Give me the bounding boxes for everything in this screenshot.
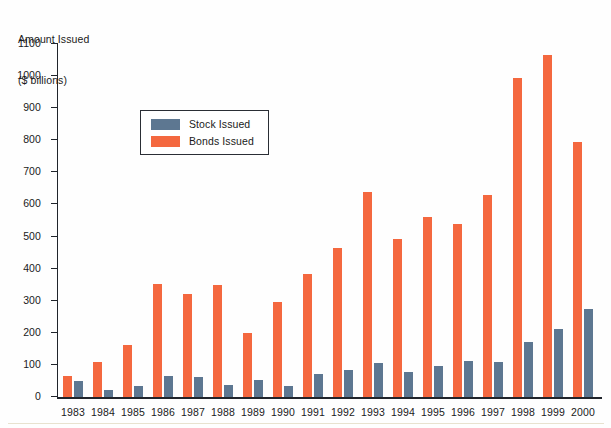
bar-group: 1994: [388, 44, 418, 397]
page-bottom-rule: [8, 423, 604, 424]
bar-stock[interactable]: [254, 380, 264, 397]
bar-bonds[interactable]: [213, 285, 223, 397]
x-axis-tick-label: 1984: [91, 406, 115, 418]
x-axis-tick-label: 1996: [451, 406, 475, 418]
bar-stock[interactable]: [584, 309, 594, 397]
x-axis-tick-label: 1992: [331, 406, 355, 418]
y-axis-tick-label: 800: [23, 133, 41, 145]
bar-stock[interactable]: [434, 366, 444, 397]
y-axis-tick-label: 400: [23, 262, 41, 274]
bar-bonds[interactable]: [363, 192, 373, 397]
bar-stock[interactable]: [464, 361, 474, 397]
y-axis-tick: 700: [51, 171, 58, 172]
y-axis-tick: 200: [51, 332, 58, 333]
x-axis-tick-label: 1991: [301, 406, 325, 418]
y-axis-tick: 100: [51, 364, 58, 365]
x-axis-line: [57, 397, 602, 399]
x-axis-tick-label: 1989: [241, 406, 265, 418]
plot-area: 010020030040050060070080090010001100 198…: [58, 44, 598, 397]
bar-stock[interactable]: [344, 370, 354, 397]
x-axis-tick-label: 1998: [511, 406, 535, 418]
legend-item-stock[interactable]: Stock Issued: [151, 118, 254, 130]
x-axis-tick-label: 1983: [61, 406, 85, 418]
bar-group: 1995: [418, 44, 448, 397]
y-axis-tick: 600: [51, 203, 58, 204]
bar-group: 1996: [448, 44, 478, 397]
y-axis-tick-label: 600: [23, 197, 41, 209]
legend-swatch-stock: [151, 119, 180, 130]
bar-group: 2000: [568, 44, 598, 397]
bar-stock[interactable]: [374, 363, 384, 397]
y-axis-tick: 400: [51, 268, 58, 269]
x-axis-tick-label: 1988: [211, 406, 235, 418]
bar-bonds[interactable]: [483, 195, 493, 397]
legend-label-stock: Stock Issued: [189, 118, 250, 130]
bar-group: 1989: [238, 44, 268, 397]
bar-bonds[interactable]: [573, 142, 583, 397]
bar-stock[interactable]: [224, 385, 234, 398]
x-axis-tick-label: 1987: [181, 406, 205, 418]
y-axis-tick-label: 200: [23, 326, 41, 338]
legend-item-bonds[interactable]: Bonds Issued: [151, 135, 254, 147]
bar-stock[interactable]: [74, 381, 84, 397]
chart-container: Amount Issued ($ billions) 0100200300400…: [0, 0, 611, 428]
bar-bonds[interactable]: [543, 55, 553, 397]
x-axis-tick-label: 1994: [391, 406, 415, 418]
x-axis-tick-label: 1997: [481, 406, 505, 418]
bar-bonds[interactable]: [153, 284, 163, 397]
y-axis-tick-label: 700: [23, 165, 41, 177]
bar-group: 1985: [118, 44, 148, 397]
bar-bonds[interactable]: [513, 78, 523, 397]
bar-stock[interactable]: [314, 374, 324, 397]
bar-stock[interactable]: [134, 386, 144, 397]
y-axis-tick: 1000: [51, 75, 58, 76]
bar-group: 1990: [268, 44, 298, 397]
bar-stock[interactable]: [494, 362, 504, 397]
x-axis-tick-label: 1985: [121, 406, 145, 418]
y-axis-tick: 0: [51, 396, 58, 397]
y-axis-tick: 800: [51, 139, 58, 140]
bar-stock[interactable]: [284, 386, 294, 397]
bar-group: 1987: [178, 44, 208, 397]
y-axis-tick-label: 500: [23, 230, 41, 242]
bar-bonds[interactable]: [93, 362, 103, 397]
bar-bonds[interactable]: [123, 345, 133, 397]
bar-stock[interactable]: [404, 372, 414, 397]
y-axis-tick: 500: [51, 236, 58, 237]
bar-stock[interactable]: [524, 342, 534, 397]
bar-group: 1991: [298, 44, 328, 397]
bar-bonds[interactable]: [333, 248, 343, 397]
legend-swatch-bonds: [151, 136, 180, 147]
bar-bonds[interactable]: [183, 294, 193, 397]
bar-group: 1998: [508, 44, 538, 397]
y-axis-tick-label: 900: [23, 101, 41, 113]
bar-bonds[interactable]: [243, 333, 253, 397]
x-axis-tick-label: 1995: [421, 406, 445, 418]
bar-bonds[interactable]: [453, 224, 463, 397]
bar-stock[interactable]: [104, 390, 114, 397]
y-axis-tick-label: 1000: [17, 69, 41, 81]
y-axis-tick-label: 100: [23, 358, 41, 370]
bar-bonds[interactable]: [303, 274, 313, 397]
y-axis-tick: 300: [51, 300, 58, 301]
x-axis-tick-label: 1986: [151, 406, 175, 418]
x-axis-tick-label: 1999: [541, 406, 565, 418]
legend-label-bonds: Bonds Issued: [189, 135, 254, 147]
bar-bonds[interactable]: [63, 376, 73, 398]
bar-group: 1988: [208, 44, 238, 397]
bar-stock[interactable]: [194, 377, 204, 397]
y-axis-tick: 1100: [51, 43, 58, 44]
y-axis-tick-label: 300: [23, 294, 41, 306]
bar-bonds[interactable]: [393, 239, 403, 397]
bar-group: 1999: [538, 44, 568, 397]
bar-stock[interactable]: [164, 376, 174, 397]
x-axis-tick-label: 2000: [571, 406, 595, 418]
bar-group: 1997: [478, 44, 508, 397]
x-axis-tick-label: 1990: [271, 406, 295, 418]
y-axis-tick-label: 0: [35, 390, 41, 402]
bar-group: 1983: [58, 44, 88, 397]
bar-group: 1993: [358, 44, 388, 397]
bar-bonds[interactable]: [273, 302, 283, 397]
bar-stock[interactable]: [554, 329, 564, 397]
bar-bonds[interactable]: [423, 217, 433, 397]
